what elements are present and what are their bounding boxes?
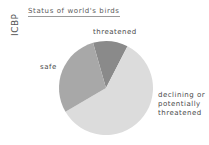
- label-declining: declining or potentially threatened: [158, 91, 205, 118]
- label-declining-line-2: potentially: [158, 100, 205, 109]
- label-threatened: threatened: [93, 28, 137, 37]
- label-declining-line-1: declining or: [158, 91, 205, 100]
- pie-slices: [59, 41, 153, 135]
- label-safe: safe: [40, 63, 57, 72]
- pie-chart: [0, 0, 209, 145]
- label-declining-line-3: threatened: [158, 109, 205, 118]
